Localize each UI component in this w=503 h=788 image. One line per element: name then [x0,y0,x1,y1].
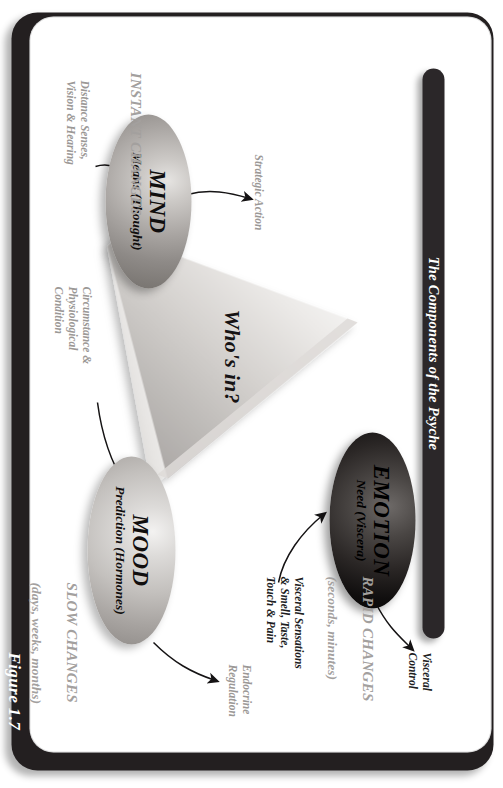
figure-title: The Components of the Psyche [422,68,444,638]
category-rapid-sub: (seconds, minutes) [322,576,338,701]
annotation-endocrine-regulation: Endocrine Regulation [225,664,253,716]
figure-frame: Figure 1.7 The Components of the Psyche [11,12,493,770]
node-emotion-subtitle: Need (Viscera) [352,479,366,561]
node-emotion-title: EMOTION [368,464,392,575]
figure-title-bar: The Components of the Psyche [422,68,444,638]
annotation-visceral-sensations: Visceral Sensations & Smell, Taste, Touc… [263,576,305,668]
node-mood[interactable]: MOOD Prediction (Hormones) [87,456,175,644]
annotation-circumstance: Circumstance & Physiological Condition [51,286,93,364]
node-mood-label: MOOD Prediction (Hormones) [87,456,175,644]
category-rapid-main: RAPID CHANGES [358,576,376,701]
category-rapid-changes: RAPID CHANGES (seconds, minutes) [303,576,395,701]
center-question: Who's in? [218,309,244,403]
category-slow-changes: SLOW CHANGES (days, weeks, months) [7,582,99,704]
annotation-strategic-action: Strategic Action [251,154,265,230]
category-slow-sub: (days, weeks, months) [26,582,42,704]
category-instant-changes: INSTANT CHANGES [87,72,163,215]
node-mood-title: MOOD [127,514,151,586]
figure-sheet: The Components of the Psyche [29,16,491,752]
annotation-distance-senses: Distance Senses, Vision & Hearing [63,80,91,164]
node-mood-subtitle: Prediction (Hormones) [111,486,125,615]
category-instant-main: INSTANT CHANGES [126,72,144,215]
category-slow-main: SLOW CHANGES [62,582,80,704]
annotation-visceral-control: Visceral Control [405,652,433,690]
